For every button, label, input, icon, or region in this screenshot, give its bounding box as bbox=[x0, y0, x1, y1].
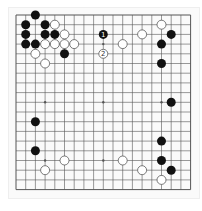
white-stone bbox=[41, 166, 50, 175]
black-stone bbox=[31, 117, 40, 126]
black-stone bbox=[157, 137, 166, 146]
white-stone bbox=[157, 175, 166, 184]
white-stone bbox=[31, 49, 40, 58]
white-stone bbox=[138, 30, 147, 39]
black-stone bbox=[50, 30, 59, 39]
white-stone bbox=[118, 156, 127, 165]
star-point bbox=[102, 43, 104, 45]
black-stone bbox=[41, 20, 50, 29]
white-stone bbox=[157, 20, 166, 29]
black-stone bbox=[167, 166, 176, 175]
white-stone bbox=[138, 166, 147, 175]
white-stone bbox=[41, 40, 50, 49]
black-stone bbox=[157, 40, 166, 49]
white-stone bbox=[60, 30, 69, 39]
black-stone bbox=[157, 156, 166, 165]
go-board[interactable]: 12 bbox=[0, 0, 202, 211]
star-point bbox=[102, 159, 104, 161]
black-stone bbox=[167, 98, 176, 107]
black-stone bbox=[21, 30, 30, 39]
black-stone bbox=[157, 59, 166, 68]
black-stone bbox=[31, 40, 40, 49]
star-point bbox=[160, 101, 162, 103]
black-stone bbox=[21, 20, 30, 29]
black-stone bbox=[31, 11, 40, 20]
black-stone bbox=[41, 30, 50, 39]
white-stone bbox=[41, 59, 50, 68]
white-stone bbox=[60, 40, 69, 49]
star-point bbox=[102, 101, 104, 103]
star-point bbox=[44, 159, 46, 161]
white-stone bbox=[70, 40, 79, 49]
black-stone bbox=[167, 30, 176, 39]
move-number: 1 bbox=[101, 31, 105, 39]
white-stone bbox=[118, 40, 127, 49]
move-number: 2 bbox=[101, 50, 105, 58]
black-stone bbox=[60, 49, 69, 58]
star-point bbox=[44, 101, 46, 103]
black-stone bbox=[31, 146, 40, 155]
black-stone bbox=[21, 40, 30, 49]
white-stone bbox=[60, 156, 69, 165]
white-stone bbox=[50, 40, 59, 49]
white-stone bbox=[50, 20, 59, 29]
